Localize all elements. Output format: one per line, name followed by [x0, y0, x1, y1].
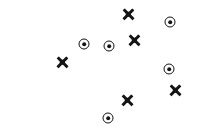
- scatter-marker-cross: [122, 8, 135, 21]
- scatter-marker-bullseye: [103, 113, 114, 124]
- cross-center: [125, 11, 130, 16]
- scatter-marker-cross: [169, 84, 182, 97]
- scatter-marker-bullseye: [79, 39, 90, 50]
- bullseye-core: [168, 20, 173, 25]
- cross-center: [124, 97, 129, 102]
- scatter-marker-bullseye: [164, 64, 175, 75]
- bullseye-core: [106, 116, 111, 121]
- bullseye-core: [82, 42, 87, 47]
- scatter-marker-cross: [56, 56, 69, 69]
- scatter-marker-cross: [128, 34, 141, 47]
- bullseye-core: [107, 44, 112, 49]
- cross-center: [172, 87, 177, 92]
- bullseye-core: [167, 67, 172, 72]
- scatter-marker-bullseye: [165, 17, 176, 28]
- cross-center: [59, 59, 64, 64]
- cross-center: [131, 37, 136, 42]
- scatter-marker-cross: [121, 94, 134, 107]
- scatter-plot-canvas: [0, 0, 200, 134]
- scatter-marker-bullseye: [104, 41, 115, 52]
